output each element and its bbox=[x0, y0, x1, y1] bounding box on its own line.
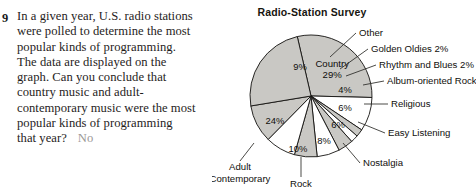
slice-label-other-value: 9% bbox=[293, 61, 307, 72]
slice-label-adult-contemporary-value: 24% bbox=[266, 115, 285, 126]
leader-line-nostalgia bbox=[343, 143, 360, 163]
callout-label-album-oriented-rock: Album-oriented Rock bbox=[387, 75, 476, 86]
problem-line: popular kinds of programming bbox=[17, 116, 207, 131]
callout-label-nostalgia: Nostalgia bbox=[363, 157, 404, 168]
slice-label-album-oriented-rock-value: 4% bbox=[338, 84, 352, 95]
callout-label-other: Other bbox=[359, 27, 384, 38]
problem-line: In a given year, U.S. radio stations bbox=[17, 9, 207, 24]
problem-line: popular kinds of programming. bbox=[17, 40, 207, 55]
callout-label-religious: Religious bbox=[391, 98, 431, 109]
problem-line: were polled to determine the most bbox=[17, 24, 207, 39]
slice-label-nostalgia-value: 8% bbox=[317, 135, 331, 146]
problem-block: 9 In a given year, U.S. radio stations w… bbox=[0, 0, 212, 150]
callout-label-golden-oldies: Golden Oldies 2% bbox=[371, 43, 449, 54]
slice-label-rock-value: 10% bbox=[289, 143, 308, 154]
slice-label-easy-listening-value: 6% bbox=[331, 119, 345, 130]
problem-line: contemporary music were the most bbox=[17, 101, 207, 116]
problem-answer: No bbox=[67, 131, 94, 145]
problem-line: graph. Can you conclude that bbox=[17, 70, 207, 85]
pie-wedges-group bbox=[250, 35, 372, 157]
callout-label-adult-contemporary-line2: Contemporary bbox=[212, 173, 271, 184]
problem-line-with-answer: that year?No bbox=[17, 131, 207, 146]
slice-label-country-value: 29% bbox=[323, 69, 343, 80]
slice-label-religious-value: 6% bbox=[338, 102, 352, 113]
callout-label-rhythm-and-blues: Rhythm and Blues 2% bbox=[379, 59, 474, 70]
slice-label-country-name: Country bbox=[315, 58, 349, 69]
problem-line: The data are displayed on the bbox=[17, 55, 207, 70]
problem-number: 9 bbox=[2, 11, 8, 26]
pie-chart-figure: Radio-Station Survey Country 29% 9% 4% 6… bbox=[212, 0, 476, 191]
worksheet-page: 9 In a given year, U.S. radio stations w… bbox=[0, 0, 476, 191]
callout-label-adult-contemporary-line1: Adult bbox=[229, 161, 251, 172]
callout-label-rock: Rock bbox=[290, 178, 312, 189]
problem-line: country music and adult- bbox=[17, 85, 207, 100]
leader-line-adult-contemporary bbox=[240, 143, 254, 161]
pie-chart-svg: Country 29% 9% 4% 6% 6% 8% 10% 24% Other… bbox=[212, 0, 476, 191]
problem-statement: In a given year, U.S. radio stations wer… bbox=[17, 9, 207, 147]
callout-label-easy-listening: Easy Listening bbox=[388, 127, 450, 138]
problem-line-text: that year? bbox=[17, 131, 67, 145]
